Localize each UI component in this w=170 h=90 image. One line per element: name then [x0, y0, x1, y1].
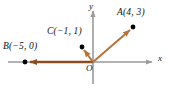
point-label-C: C(−1, 1): [47, 27, 82, 37]
point-label-A: A(4, 3): [117, 8, 145, 18]
x-axis-label: x: [158, 54, 162, 63]
coordinate-plane-figure: A(4, 3) B(−5, 0) C(−1, 1) O x y: [0, 0, 170, 90]
y-axis-label: y: [89, 2, 93, 11]
point-B: [23, 60, 28, 65]
vector-OC: [84, 50, 93, 62]
origin-label: O: [86, 64, 93, 73]
vector-OA: [93, 30, 130, 62]
point-A: [131, 25, 136, 30]
point-C: [80, 45, 85, 50]
point-label-B: B(−5, 0): [3, 42, 37, 52]
